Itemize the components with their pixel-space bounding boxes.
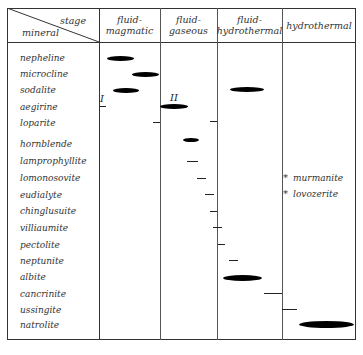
mineral-label-villiaumite: villiaumite <box>20 222 68 234</box>
marker-natrolite <box>299 321 354 328</box>
header-fluid-hydrothermal: fluid- hydrothermal <box>217 8 282 42</box>
marker-sodalite-fluid-hydrothermal <box>230 87 264 92</box>
marker-eudialyte <box>205 194 214 195</box>
note-text: lovozerite <box>293 189 338 199</box>
marker-cancrinite <box>264 293 282 294</box>
marker-pectolite <box>218 244 225 245</box>
asterisk-icon: * <box>283 172 288 183</box>
marker-albite <box>223 275 262 281</box>
note-text: murmanite <box>293 173 343 183</box>
marker-villiaumite <box>213 227 222 228</box>
mineral-label-microcline: microcline <box>20 68 68 80</box>
note-murmanite: *murmanite <box>283 172 343 183</box>
corner-label-mineral: mineral <box>22 27 59 38</box>
asterisk-icon: * <box>283 188 288 199</box>
generation-label-I: I <box>100 93 104 104</box>
column-divider-fluid-magmatic <box>160 8 161 340</box>
mineral-label-loparite: loparite <box>20 117 56 129</box>
marker-aegirine-II <box>160 104 188 109</box>
mineral-label-eudialyte: eudialyte <box>20 189 62 201</box>
marker-loparite-2 <box>210 121 217 122</box>
mineral-label-chinglusuite: chinglusuite <box>20 205 76 217</box>
mineral-label-hornblende: hornblende <box>20 138 72 150</box>
column-divider-fluid-gaseous <box>217 8 218 340</box>
mineral-label-natrolite: natrolite <box>20 319 59 331</box>
marker-nepheline <box>107 56 134 61</box>
marker-aegirine-I <box>99 106 106 107</box>
generation-label-II: II <box>170 92 178 103</box>
header-fluid-gaseous: fluid-gaseous <box>160 8 217 42</box>
mineral-label-albite: albite <box>20 271 46 283</box>
header-hydrothermal: hydrothermal <box>282 8 356 42</box>
marker-microcline <box>132 72 159 77</box>
mineral-label-neptunite: neptunite <box>20 255 64 267</box>
marker-chinglusuite <box>210 211 217 212</box>
note-lovozerite: *lovozerite <box>283 188 338 199</box>
marker-ussingite <box>282 309 297 310</box>
mineral-label-nepheline: nepheline <box>20 52 65 64</box>
marker-lamprophyllite <box>187 161 198 162</box>
mineral-label-aegirine: aegirine <box>20 101 58 113</box>
marker-lomonosovite <box>197 178 206 179</box>
marker-neptunite <box>229 260 238 261</box>
mineral-label-lamprophyllite: lamprophyllite <box>20 155 86 167</box>
mineral-label-cancrinite: cancrinite <box>20 288 66 300</box>
column-divider-mineral <box>99 8 100 340</box>
marker-loparite-1 <box>153 122 160 123</box>
marker-sodalite-fluid-magmatic <box>113 88 139 93</box>
mineral-label-sodalite: sodalite <box>20 84 56 96</box>
mineral-label-lomonosovite: lomonosovite <box>20 172 80 184</box>
marker-hornblende <box>183 138 199 142</box>
corner-label-stage: stage <box>60 15 86 26</box>
header-fluid-magmatic: fluid-magmatic <box>99 8 160 42</box>
mineral-label-ussingite: ussingite <box>20 304 61 316</box>
header-divider <box>7 42 356 43</box>
mineral-label-pectolite: pectolite <box>20 239 60 251</box>
